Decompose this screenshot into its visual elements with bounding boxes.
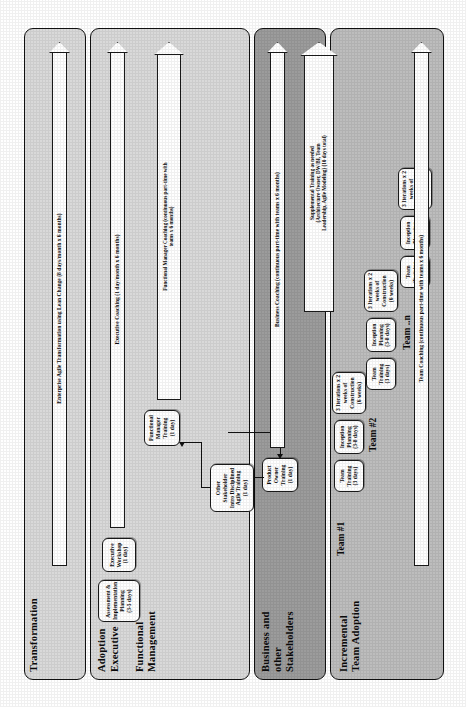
box-team1-team-training: TeamTraining(3 days) [334,460,364,492]
box-product-owner-label: ProductOwnerTraining(1 day) [266,464,294,485]
arrow-head-icon [267,42,288,53]
agile-adoption-roadmap-diagram: Transformation Adoption Executive Functi… [16,24,450,684]
group-label-team-2: Team #2 [368,417,378,451]
connector-stakeholder-to-po [254,476,264,477]
supplemental-line-3: Leadership, Agile Modeling) (10 days tot… [322,135,328,231]
box-team2-inception-planning: InceptionPlanning(3-8 days) [366,318,396,352]
arrow-supplemental-training: Supplemental Training as needed (Archite… [304,42,334,312]
box-team1-construction-label: 3 Iterations x 2weeks ofConstruction(6 w… [335,375,363,411]
band-label-team-2: Team Adoption [350,600,362,671]
band-label-team-1: Incremental [338,615,350,672]
box-assessment-label: Assessment &ImplementationPlanning(3-5 d… [105,581,133,619]
arrow-head-icon [300,42,338,56]
box-team2-inception-planning-label: InceptionPlanning(3-8 days) [371,323,392,346]
band-label-functional-2: Management [146,611,158,672]
box-other-stakeholder-training: Other StakeholderIntro DisciplinedAgile … [210,464,254,512]
box-product-owner-training: ProductOwnerTraining(1 day) [262,458,298,492]
band-label-functional-1: Functional [134,621,146,671]
box-team1-inception-planning-label: InceptionPlanning(3-8 days) [339,425,360,448]
box-executive-workshop-label: ExecutiveWorkshop(1 day) [109,542,130,567]
box-team1-construction: 3 Iterations x 2weeks ofConstruction(6 w… [332,372,366,414]
arrow-executive-coaching: Executive Coaching (1 day/month x 6 mont… [110,42,125,528]
arrow-enterprise-transformation-label: Enterprise Agile Transformation using Le… [52,52,67,566]
arrow-team-coaching: Team Coaching (continuous part-time with… [414,42,429,566]
arrow-head-icon [154,42,184,55]
band-label-adoption: Adoption [96,628,108,672]
arrow-enterprise-transformation: Enterprise Agile Transformation using Le… [52,42,67,566]
band-label-executive: Executive [109,626,121,672]
fmc-line-2: teams x 6 months) [169,206,175,246]
box-team1-inception-planning: InceptionPlanning(3-8 days) [334,420,364,454]
box-team1-team-training-label: TeamTraining(3 days) [339,465,360,486]
band-label-business-2: other [272,647,284,672]
arrow-functional-manager-coaching: Functional Manager Coaching (continuous … [157,42,181,400]
group-label-team-n: Team ..n [402,315,412,350]
arrow-functional-manager-coaching-label: Functional Manager Coaching (continuous … [157,54,181,400]
band-label-transformation: Transformation [28,598,40,672]
connector-vertical-to-fm [182,441,202,442]
box-team2-team-training-label: TeamTraining(3 days) [371,363,392,384]
box-team2-construction-label: 3 Iterations x 2weeks ofConstruction(6 w… [367,273,395,309]
box-assessment-implementation-planning: Assessment &ImplementationPlanning(3-5 d… [98,580,140,622]
arrow-business-coaching: Business Coaching (continuous part-time … [270,42,285,448]
box-other-stakeholder-label: Other StakeholderIntro DisciplinedAgile … [215,467,250,509]
box-team2-construction: 3 Iterations x 2weeks ofConstruction(6 w… [364,270,398,312]
box-executive-workshop: ExecutiveWorkshop(1 day) [102,538,136,572]
arrow-head-icon [49,42,70,53]
connector-arrowhead-icon [179,442,185,447]
band-label-business-1: Business and [260,611,272,671]
box-functional-manager-training-label: FunctionalManagerTraining(1 day) [148,415,176,441]
connector-horizontal-to-fm [201,442,202,488]
group-label-team-1: Team #1 [336,521,346,555]
arrow-head-icon [411,42,432,53]
diagram-rotation-wrapper: Transformation Adoption Executive Functi… [0,0,466,707]
arrow-supplemental-training-label: Supplemental Training as needed (Archite… [304,55,334,312]
arrow-team-coaching-label: Team Coaching (continuous part-time with… [414,52,429,566]
box-functional-manager-training: FunctionalManagerTraining(1 day) [144,410,180,446]
arrow-business-coaching-label: Business Coaching (continuous part-time … [270,52,285,448]
band-label-business-3: Stakeholders [284,611,296,672]
arrow-executive-coaching-label: Executive Coaching (1 day/month x 6 mont… [110,52,125,528]
connector-arrowhead-icon [277,454,283,459]
arrow-head-icon [107,42,128,53]
box-team2-team-training: TeamTraining(3 days) [366,358,396,390]
